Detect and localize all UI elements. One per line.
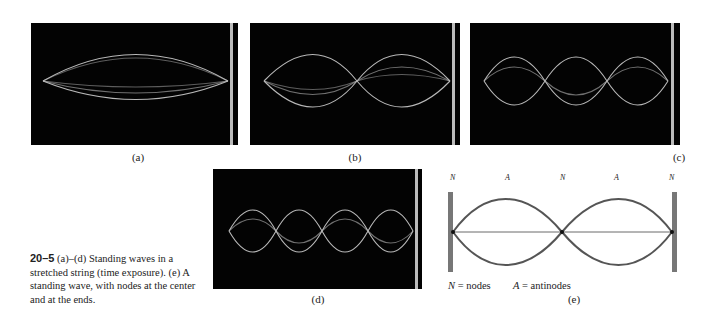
- node-label-left: N: [450, 173, 455, 182]
- photo-panel-d: [213, 169, 422, 289]
- standing-wave-3-loops: [470, 23, 680, 145]
- figure-caption: 20–5 (a)–(d) Standing waves in a stretch…: [30, 252, 200, 306]
- legend-antinodes: A = antinodes: [513, 280, 571, 291]
- standing-wave-diagram: [445, 190, 680, 275]
- panel-label-d: (d): [298, 293, 338, 305]
- standing-wave-4-loops: [213, 169, 422, 289]
- photo-panel-a: [31, 23, 238, 145]
- panel-label-a: (a): [118, 151, 158, 163]
- figure-number: 20–5: [30, 252, 54, 264]
- panel-label-c: (c): [659, 151, 699, 163]
- panel-label-b: (b): [335, 151, 375, 163]
- standing-wave-2-loops: [250, 23, 460, 145]
- caption-text: (a)–(d) Standing waves in a stretched st…: [30, 253, 195, 305]
- node-label-center: N: [560, 173, 565, 182]
- photo-panel-c: [470, 23, 680, 145]
- photo-panel-b: [250, 23, 460, 145]
- node-label-right: N: [669, 173, 674, 182]
- antinode-label-right: A: [614, 173, 619, 182]
- antinode-label-left: A: [505, 173, 510, 182]
- legend-nodes: N = nodes: [448, 280, 491, 291]
- standing-wave-1-loop: [31, 23, 238, 145]
- panel-label-e: (e): [554, 293, 594, 305]
